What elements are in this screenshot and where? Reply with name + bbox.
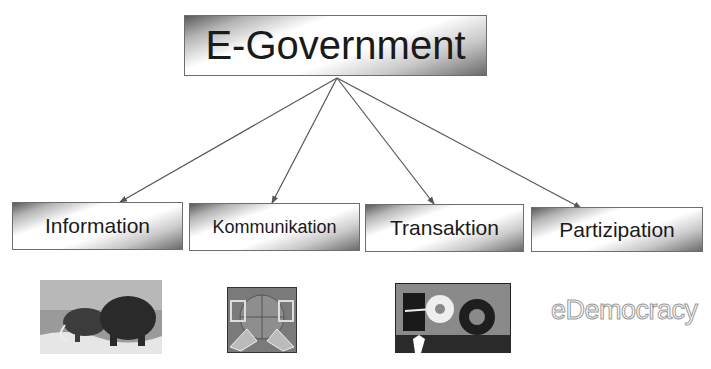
node-transaktion: Transaktion xyxy=(365,204,524,252)
edemocracy-wordart: eDemocracy xyxy=(551,295,698,326)
node-kommunikation: Kommunikation xyxy=(189,203,360,251)
node-partizipation: Partizipation xyxy=(531,207,703,252)
mammoths-picture xyxy=(40,280,162,354)
person-gears-picture xyxy=(395,283,511,353)
node-label: Kommunikation xyxy=(212,217,336,238)
root-node-e-government: E-Government xyxy=(184,15,487,76)
node-label: Partizipation xyxy=(559,218,675,242)
arrow-to-transaktion xyxy=(337,78,434,204)
computers-globe-picture xyxy=(227,287,297,353)
node-label: Transaktion xyxy=(390,216,499,240)
root-node-label: E-Government xyxy=(205,23,465,68)
arrow-to-partizipation xyxy=(337,78,581,208)
node-label: Information xyxy=(45,214,150,238)
node-information: Information xyxy=(12,202,183,250)
